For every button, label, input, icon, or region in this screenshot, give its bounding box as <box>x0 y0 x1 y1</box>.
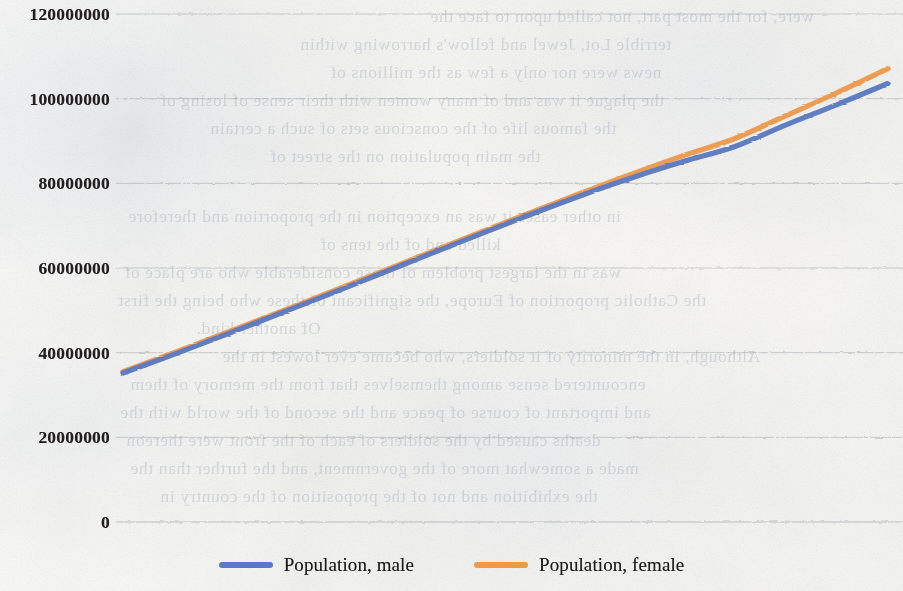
line-population-male <box>123 83 888 373</box>
chart-legend: Population, male Population, female <box>0 548 903 582</box>
y-axis-tick-label: 20000000 <box>38 427 110 448</box>
legend-swatch-male <box>219 562 273 568</box>
y-axis-tick-label: 0 <box>101 512 110 533</box>
legend-swatch-female <box>474 562 528 568</box>
legend-item-population-male[interactable]: Population, male <box>219 554 414 576</box>
series-lines <box>123 69 888 373</box>
legend-item-population-female[interactable]: Population, female <box>474 554 684 576</box>
y-axis-tick-labels: 0200000004000000060000000800000001000000… <box>0 0 110 591</box>
legend-label-male: Population, male <box>284 554 414 576</box>
line-population-female <box>123 69 888 372</box>
gridlines <box>116 14 903 522</box>
y-axis-tick-label: 60000000 <box>38 258 110 279</box>
population-line-chart <box>0 0 903 591</box>
y-axis-tick-label: 40000000 <box>38 342 110 363</box>
y-axis-tick-label: 120000000 <box>29 4 110 25</box>
y-axis-tick-label: 100000000 <box>29 88 110 109</box>
y-axis-tick-label: 80000000 <box>38 173 110 194</box>
legend-label-female: Population, female <box>539 554 684 576</box>
